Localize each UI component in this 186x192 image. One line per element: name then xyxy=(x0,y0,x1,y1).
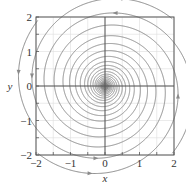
x-axis-label: x xyxy=(102,172,108,184)
y-tick-label: −1 xyxy=(20,115,32,127)
arrowhead xyxy=(113,11,118,15)
axes xyxy=(36,17,174,155)
direction-arrow-icon xyxy=(87,171,92,175)
x-tick-label: −1 xyxy=(65,157,77,169)
direction-arrow-icon xyxy=(93,156,98,160)
x-tick-label: 0 xyxy=(102,157,108,169)
arrowhead xyxy=(93,156,98,160)
direction-arrow-icon xyxy=(176,94,180,99)
arrowhead xyxy=(16,70,20,75)
direction-arrow-icon xyxy=(117,0,122,1)
direction-arrow-icon xyxy=(113,11,118,15)
direction-arrow-icon xyxy=(30,73,34,78)
y-tick-label: −2 xyxy=(20,149,32,161)
y-axis-label: y xyxy=(7,80,13,92)
x-tick-label: 1 xyxy=(137,157,143,169)
y-tick-label: 2 xyxy=(27,11,33,23)
direction-arrow-icon xyxy=(16,70,20,75)
y-tick-label: 0 xyxy=(27,80,33,92)
arrowhead xyxy=(117,0,122,1)
phase-portrait-chart: −2−1012−2−1012 x y xyxy=(0,0,186,192)
arrowhead xyxy=(30,73,34,78)
trajectories xyxy=(16,0,186,176)
arrowhead xyxy=(176,94,180,99)
arrowhead xyxy=(87,171,92,175)
y-tick-label: 1 xyxy=(27,46,33,58)
x-tick-label: 2 xyxy=(171,157,177,169)
